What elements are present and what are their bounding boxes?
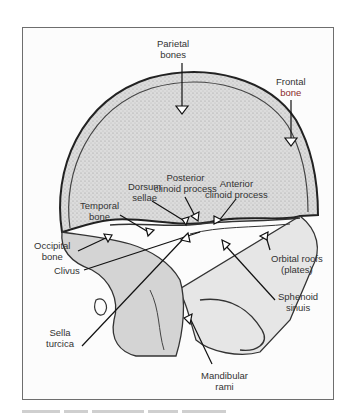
label-dorsum-sellae: Dorsum sellae [128, 181, 161, 203]
label-clivus: Clivus [54, 265, 80, 276]
label-line: Frontal [276, 76, 306, 87]
label-line: bone [34, 251, 70, 262]
figure-caption [22, 410, 242, 414]
label-frontal-bone: Frontal bone [276, 76, 306, 98]
label-sella-turcica: Sella turcica [46, 327, 74, 349]
skull-radiograph [0, 0, 353, 420]
label-sphenoid-sinus: Sphenoid sinuis [278, 291, 318, 313]
label-line: Mandibular [201, 370, 248, 381]
label-line: clinoid process [205, 189, 268, 200]
label-occipital-bone: Occipital bone [34, 240, 70, 262]
label-line: sinuis [278, 302, 318, 313]
facial-region [178, 216, 317, 354]
label-line: rami [201, 381, 248, 392]
label-line: (plates) [271, 264, 323, 275]
label-line: Sella [46, 327, 74, 338]
label-line: Sphenoid [278, 291, 318, 302]
label-temporal-bone: Temporal bone [80, 200, 119, 222]
label-anterior-clinoid-process: Anterior clinoid process [205, 178, 268, 200]
label-line: bone [276, 87, 306, 98]
label-mandibular-rami: Mandibular rami [201, 370, 248, 392]
label-line: Temporal [80, 200, 119, 211]
label-line: Clivus [54, 265, 80, 276]
label-line: sellae [128, 192, 161, 203]
label-line: turcica [46, 338, 74, 349]
label-line: Anterior [205, 178, 268, 189]
label-line: bones [157, 49, 189, 60]
label-line: Occipital [34, 240, 70, 251]
label-parietal-bones: Parietal bones [157, 38, 189, 60]
label-line: Dorsum [128, 181, 161, 192]
label-line: Parietal [157, 38, 189, 49]
label-line: Orbital roofs [271, 253, 323, 264]
label-orbital-roofs: Orbital roofs (plates) [271, 253, 323, 275]
label-line: bone [80, 211, 119, 222]
